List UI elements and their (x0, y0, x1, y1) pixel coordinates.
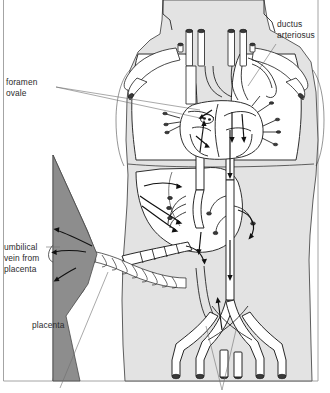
diagram-canvas: ductus arteriosus foramen ovale umbilica… (0, 0, 330, 393)
ductus-arteriosus-line1: ductus (277, 19, 302, 29)
umbilical-vein-line2: vein from (4, 253, 39, 263)
label-placenta: placenta (32, 320, 65, 330)
fetal-circulation-figure: ductus arteriosus foramen ovale umbilica… (0, 0, 330, 393)
ductus-arteriosus-line2: arteriosus (277, 30, 315, 40)
umbilical-vein-line1: umbilical (4, 242, 38, 252)
foramen-ovale-line1: foramen (6, 77, 38, 87)
umbilical-vein-line3: placenta (4, 264, 37, 274)
placenta-label: placenta (32, 320, 65, 330)
foramen-ovale-line2: ovale (6, 88, 27, 98)
label-umbilical-vein-from-placenta: umbilical vein from placenta (4, 242, 39, 274)
